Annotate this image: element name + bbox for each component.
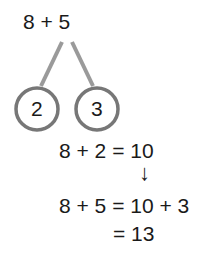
- bond-value-left: 2: [31, 97, 43, 121]
- bond-value-right: 3: [91, 97, 103, 121]
- down-arrow-icon: ↓: [139, 158, 150, 188]
- bond-line-right: [72, 42, 93, 86]
- expression-label: 8 + 5: [23, 10, 70, 34]
- step-line-3: = 13: [113, 222, 154, 246]
- bond-line-left: [41, 42, 62, 86]
- step-line-2: 8 + 5 = 10 + 3: [59, 194, 189, 218]
